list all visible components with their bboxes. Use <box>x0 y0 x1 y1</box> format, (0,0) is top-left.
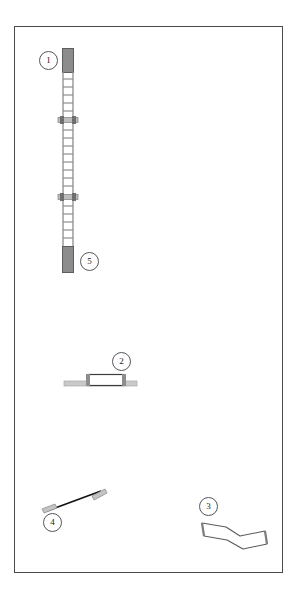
parts-illustration <box>0 0 298 596</box>
mast-rungs-upper <box>63 79 73 111</box>
cranked-flat-bar <box>202 523 267 549</box>
rail-block-right-shoulder <box>122 374 126 386</box>
diagram-page: 1 5 2 3 4 <box>0 0 298 596</box>
mast-rungs-middle <box>63 130 73 186</box>
diagonal-tie-rod <box>42 489 107 513</box>
mast-top-cap <box>63 49 74 73</box>
mast-bottom-cap <box>63 247 74 273</box>
tie-rod-upper-end <box>92 489 107 500</box>
callout-1[interactable]: 1 <box>39 51 58 70</box>
horizontal-rail-assembly <box>64 374 137 386</box>
mast-bracket-upper <box>58 116 78 124</box>
rail-block-left-shoulder <box>86 374 90 386</box>
callout-3[interactable]: 3 <box>199 497 218 516</box>
mast-rungs-lower <box>63 206 73 238</box>
rail-center-block <box>89 375 124 386</box>
tie-rod-lower-end <box>42 504 57 513</box>
callout-2[interactable]: 2 <box>112 352 131 371</box>
callout-5[interactable]: 5 <box>80 252 99 271</box>
mast-bracket-lower <box>58 193 78 201</box>
cranked-bar-body <box>202 523 267 549</box>
callout-4[interactable]: 4 <box>43 513 62 532</box>
vertical-ladder-mast <box>58 49 78 273</box>
